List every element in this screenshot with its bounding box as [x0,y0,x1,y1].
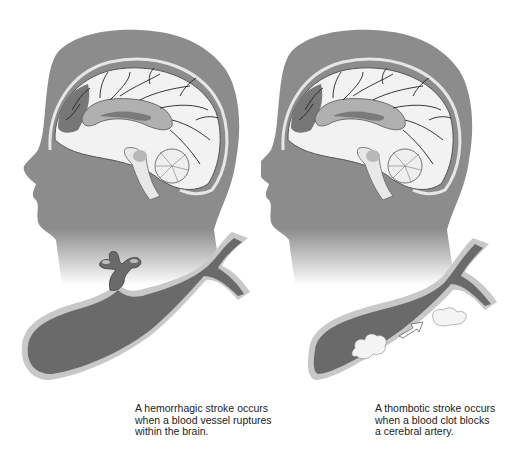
caption-line: within the brain. [135,426,272,438]
hemorrhagic-stroke-panel: A hemorrhagic stroke occurs when a blood… [0,0,261,450]
thrombotic-caption: A thombotic stroke occurs when a blood c… [375,403,495,438]
thrombotic-illustration [261,0,522,450]
thrombotic-stroke-panel: A thombotic stroke occurs when a blood c… [261,0,522,450]
blocking-clot [433,308,467,326]
caption-line: A thombotic stroke occurs [375,403,495,415]
caption-line: A hemorrhagic stroke occurs [135,403,272,415]
hemorrhagic-caption: A hemorrhagic stroke occurs when a blood… [135,403,272,438]
caption-line: a cerebral artery. [375,426,495,438]
hemorrhagic-illustration [0,0,261,450]
